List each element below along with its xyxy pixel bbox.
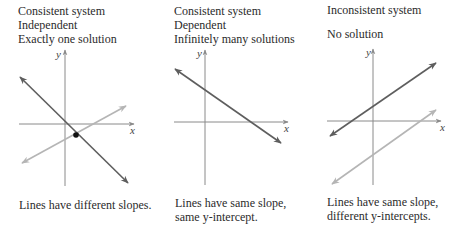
panel-2-caption-line-2: same y-intercept. bbox=[175, 210, 258, 224]
panel-2-caption-line-1: Lines have same slope, bbox=[175, 196, 286, 210]
panel-1-caption: Lines have different slopes. bbox=[19, 198, 151, 212]
panel-2-header-system: Consistent system bbox=[174, 4, 261, 18]
panel-inconsistent: Inconsistent system No solution Lines ha… bbox=[300, 0, 451, 227]
panel-3-caption-line-2: different y-intercepts. bbox=[327, 209, 431, 223]
panel-2-header-type: Dependent bbox=[174, 18, 226, 32]
panel-consistent-dependent: Consistent system Dependent Infinitely m… bbox=[150, 0, 300, 227]
panel-3-header-system: Inconsistent system bbox=[327, 3, 421, 17]
panel-consistent-independent: Consistent system Independent Exactly on… bbox=[0, 0, 150, 227]
panel-1-header-type: Independent bbox=[18, 18, 77, 32]
panel-3-header-solutions: No solution bbox=[327, 27, 383, 41]
panel-1-header-system: Consistent system bbox=[18, 4, 105, 18]
panel-2-header-solutions: Infinitely many solutions bbox=[174, 32, 295, 46]
panel-3-caption-line-1: Lines have same slope, bbox=[327, 195, 438, 209]
panel-1-header-solutions: Exactly one solution bbox=[18, 32, 117, 46]
